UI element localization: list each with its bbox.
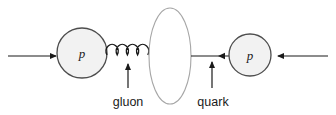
gluon-callout-label: gluon: [113, 95, 144, 109]
gluon-coil: [106, 44, 149, 55]
proton-right-label: p: [246, 48, 254, 63]
collision-ellipse: [149, 8, 191, 104]
proton-left-label: p: [78, 46, 86, 61]
physics-diagram-figure: p p gluon quark: [0, 0, 336, 115]
quark-callout-label: quark: [197, 95, 229, 109]
quark-line-arrowhead: [218, 53, 225, 59]
collision-diagram-canvas: p p gluon quark: [0, 0, 336, 115]
